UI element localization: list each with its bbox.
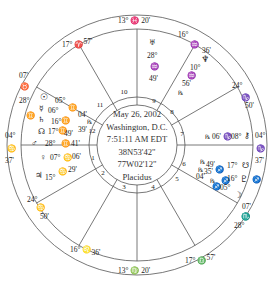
mercury-min: 39' — [78, 125, 88, 134]
cusp-3-label: 16° ♌36' — [70, 245, 101, 257]
uranus-sign: ♒ — [150, 62, 159, 71]
sun-min: 04' — [78, 110, 88, 119]
cusp-12-min: 07' — [19, 71, 29, 80]
uranus-deg: 28° — [147, 51, 158, 60]
moon-deg: 05° — [220, 183, 231, 192]
venus-deg: 07° — [50, 153, 61, 162]
cusp-11-label: 17° ♈57' — [62, 37, 93, 49]
jupiter-min: 29' — [68, 165, 78, 174]
pluto-min: 35' — [204, 167, 214, 176]
chiron-icon: ⚷ — [244, 131, 250, 140]
mercury-icon: ☿ — [39, 104, 44, 113]
cusp-12-deg: 28° — [19, 96, 30, 105]
north-node-icon: ☊ — [38, 127, 45, 136]
jupiter-deg: 15° — [45, 173, 56, 182]
mercury-deg: 06° — [48, 106, 59, 115]
chiron-retrograde: ℞ — [205, 134, 210, 140]
house-number-10: 10 — [121, 88, 129, 96]
venus-sign: ♋ — [63, 153, 72, 162]
chart-house-system: Placidus — [97, 171, 177, 184]
south-node-sign: ♐ — [215, 165, 224, 174]
jupiter-sign: ♋ — [58, 167, 67, 176]
mars-deg: 28° — [45, 139, 56, 148]
cusp-4-label: 13° ♍ 20' — [118, 266, 151, 275]
house-number-7: 7 — [180, 130, 184, 138]
zodiac-sign-sagittarius: ♐ — [252, 175, 261, 184]
cusp-2-sign: ♋ — [36, 203, 45, 212]
chart-longitude: 77W02'12" — [97, 158, 177, 171]
mercury-retrograde: ℞ — [87, 119, 92, 125]
cusp-6-deg: 28° — [234, 221, 245, 230]
house-number-3: 3 — [122, 183, 126, 191]
pluto-icon: ♇ — [240, 174, 248, 184]
north-node-deg: 17° — [48, 127, 59, 136]
saturn-icon: ♄ — [38, 115, 45, 124]
venus-icon: ♀ — [40, 152, 46, 162]
cusp-10-label: 13° ♓ 20' — [118, 16, 151, 25]
sun-sign: ♊ — [68, 103, 77, 112]
neptune-retrograde: ℞ — [178, 90, 183, 96]
house-number-12: 12 — [89, 127, 97, 135]
chiron-min: 06' — [212, 132, 222, 141]
neptune-min: 56' — [182, 79, 192, 88]
chart-info: May 26, 2002 Washington, D.C. 7:51:11 AM… — [97, 108, 177, 184]
house-number-4: 4 — [151, 183, 155, 191]
cusp-7-min: 37' — [255, 156, 265, 165]
jupiter-icon: ♃ — [35, 170, 43, 180]
cusp-2-min: 50' — [40, 212, 50, 221]
south-node-deg: 17° — [227, 161, 238, 170]
uranus-min: 49' — [149, 74, 159, 83]
mars-sign: ♊ — [61, 139, 70, 148]
cusp-8-deg: 24° — [232, 81, 243, 90]
house-number-1: 1 — [91, 154, 95, 162]
cusp-1-min: 37' — [5, 156, 15, 165]
chart-place: Washington, D.C. — [97, 121, 177, 134]
sun-icon: ☉ — [40, 92, 48, 102]
cusp-1-deg: 04° — [5, 131, 16, 140]
moon-icon: ☽ — [234, 190, 242, 200]
zodiac-sign-gemini: ♊ — [26, 111, 35, 120]
house-number-6: 6 — [182, 160, 186, 168]
cusp-9-sign: ♒ — [190, 40, 199, 49]
moon-min: 04' — [196, 172, 206, 181]
mars-icon: ♂ — [31, 138, 38, 148]
mars-min: 41' — [71, 139, 81, 148]
cusp-8-min: 50' — [245, 101, 255, 110]
venus-min: 06' — [72, 152, 82, 161]
cusp-7-sign: ♑ — [256, 144, 265, 153]
chiron-deg: 08° — [231, 132, 242, 141]
neptune-icon: ♆ — [201, 54, 209, 64]
saturn-deg: 16° — [51, 117, 62, 126]
cusp-5-label: 17° ♎57' — [185, 253, 216, 265]
cusp-7-deg: 04° — [255, 131, 266, 140]
sun-deg: 05° — [55, 96, 66, 105]
cusp-9-deg: 16° — [178, 30, 189, 39]
south-node-icon: ☋ — [242, 161, 249, 170]
house-number-9: 9 — [152, 97, 156, 105]
chart-latitude: 38N53'42" — [97, 146, 177, 159]
cusp-1-sign: ♋ — [7, 144, 16, 153]
chart-time: 7:51:11 AM EDT — [97, 133, 177, 146]
cusp-6-sign: ♏ — [241, 212, 250, 221]
pluto-deg: 16° — [227, 174, 238, 183]
south-node-retrograde: ℞ — [200, 159, 205, 165]
chart-date: May 26, 2002 — [97, 108, 177, 121]
uranus-icon: ♅ — [149, 38, 156, 47]
saturn-sign: ♊ — [61, 116, 70, 125]
cusp-12-sign: ♉ — [20, 82, 29, 91]
cusp-6-min: 07' — [242, 202, 252, 211]
saturn-min: 49' — [64, 129, 74, 138]
